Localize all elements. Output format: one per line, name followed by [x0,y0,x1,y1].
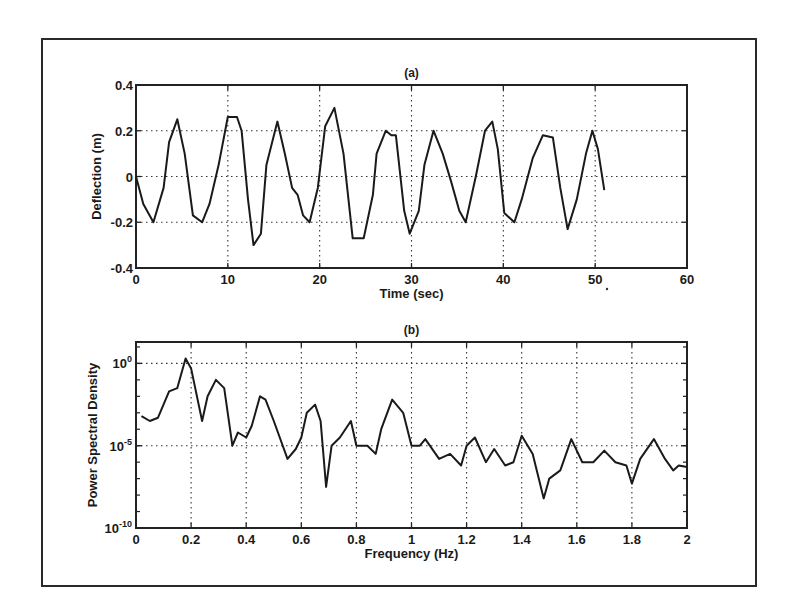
stray-mark [606,288,608,290]
plot-a: (a)01020304050600.40.20-0.2-0.4Time (sec… [89,66,694,301]
x-tick-label: 0.4 [237,532,256,547]
y-axis-label: Deflection (m) [89,133,104,220]
x-tick-label: 10 [221,272,235,287]
plot-title-b: (b) [404,323,419,337]
x-tick-label: 0 [132,272,139,287]
x-tick-label: 0.6 [292,532,310,547]
y-tick-label: 0.2 [115,124,133,139]
x-tick-label: 2 [683,532,690,547]
x-tick-label: 60 [680,272,694,287]
figure: (a)01020304050600.40.20-0.2-0.4Time (sec… [0,0,794,615]
x-tick-label: 0 [132,532,139,547]
series-line-psd [142,359,688,499]
x-tick-label: 20 [312,272,326,287]
plot-b: (b)00.20.40.60.811.21.41.61.8210010-510-… [85,323,691,561]
y-tick-label: 100 [113,354,132,371]
x-tick-label: 1.2 [458,532,476,547]
y-tick-label: 10-10 [105,519,132,536]
y-tick-label: 0.4 [115,78,134,93]
x-tick-label: 1.8 [623,532,641,547]
y-axis-label: Power Spectral Density [85,362,100,507]
x-axis-label: Frequency (Hz) [365,546,459,561]
x-tick-label: 0.8 [347,532,365,547]
x-tick-label: 40 [496,272,510,287]
y-tick-label: -0.2 [111,215,133,230]
x-tick-label: 1.6 [568,532,586,547]
x-axis-label: Time (sec) [379,286,443,301]
x-tick-label: 1.4 [513,532,532,547]
y-tick-label: 10-5 [110,437,132,454]
y-tick-label: -0.4 [111,261,134,276]
axes-box [136,342,687,528]
x-tick-label: 30 [404,272,418,287]
x-tick-label: 0.2 [182,532,200,547]
x-tick-label: 50 [588,272,602,287]
x-tick-label: 1 [408,532,415,547]
y-tick-label: 0 [126,170,133,185]
plot-title-a: (a) [404,66,419,80]
